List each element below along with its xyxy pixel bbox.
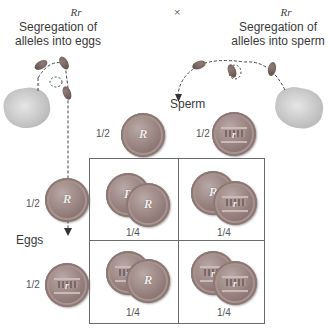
sperm-fraction: 1/2 [96,128,110,139]
cell-probability: 1/4 [126,227,140,238]
punnett-cell-Rr: R r 1/4 [179,159,265,240]
allele-label: r [45,279,89,291]
penny-tails-icon: r [213,181,257,225]
penny-heads-icon: R [126,259,170,303]
allele-label: R [121,126,165,142]
egg-fraction: 1/2 [26,198,40,209]
cross-symbol: × [174,6,180,18]
punnett-cell-rR: r R 1/4 [90,241,178,324]
allele-label: R [45,191,89,207]
penny-heads-icon: R [121,113,165,157]
eggs-label: Eggs [16,233,43,247]
penny-heads-icon: R [126,183,170,227]
cell-probability: 1/4 [126,307,140,318]
punnett-square: R R 1/4 R r 1/4 r R 1/4 r [89,158,265,324]
sperm-fraction: 1/2 [196,128,210,139]
punnett-cell-rr: r r 1/4 [179,241,265,324]
penny-heads-icon: R [45,178,89,222]
punnett-cell-RR: R R 1/4 [90,159,178,240]
cell-probability: 1/4 [217,307,231,318]
right-genotype: Rr [266,6,306,18]
left-genotype: Rr [56,6,96,18]
allele-label: r [212,128,256,140]
eggs-segregation-caption: Segregation of alleles into eggs [8,20,108,48]
egg-fraction: 1/2 [26,279,40,290]
penny-tails-icon: r [45,263,89,307]
sperm-label: Sperm [170,97,205,111]
cell-probability: 1/4 [217,227,231,238]
penny-tails-icon: r [213,261,257,305]
sperm-segregation-caption: Segregation of alleles into sperm [226,20,330,48]
penny-tails-icon: r [212,112,256,156]
